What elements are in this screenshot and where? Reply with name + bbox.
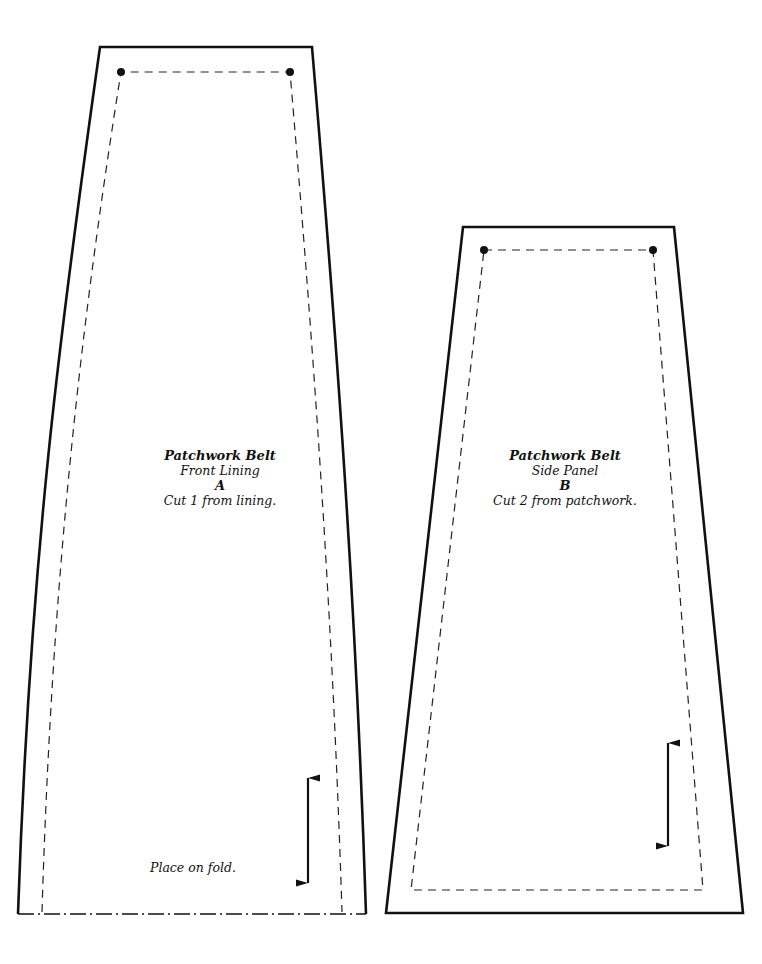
piece-b-subtitle: Side Panel [470, 463, 660, 478]
piece-a-subtitle: Front Lining [120, 463, 320, 478]
piece-a-letter: A [120, 478, 320, 493]
dot-marker-icon [649, 246, 657, 254]
piece-b-title: Patchwork Belt [470, 448, 660, 463]
piece-b-letter: B [470, 478, 660, 493]
piece-b-seam-line [411, 250, 703, 890]
pattern-piece-b [386, 227, 743, 913]
dot-marker-icon [480, 246, 488, 254]
piece-a-fold-text: Place on fold. [150, 860, 236, 875]
piece-a-label: Patchwork Belt Front Lining A Cut 1 from… [120, 448, 320, 508]
piece-a-title: Patchwork Belt [120, 448, 320, 463]
piece-b-instruction: Cut 2 from patchwork. [470, 493, 660, 508]
dot-marker-icon [117, 68, 125, 76]
dot-marker-icon [286, 68, 294, 76]
piece-b-label: Patchwork Belt Side Panel B Cut 2 from p… [470, 448, 660, 508]
piece-b-cutting-line [386, 227, 743, 913]
piece-a-instruction: Cut 1 from lining. [120, 493, 320, 508]
